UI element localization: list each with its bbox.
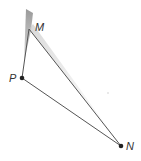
- label-n: N: [126, 140, 134, 152]
- segment-mn: [29, 29, 121, 146]
- label-p: P: [9, 72, 17, 84]
- segment-pn: [22, 78, 121, 146]
- label-m: M: [35, 21, 45, 33]
- triangle-diagram: M P N: [0, 0, 141, 161]
- point-p: [20, 76, 25, 81]
- stray-dot: [107, 92, 109, 94]
- point-n: [119, 144, 124, 149]
